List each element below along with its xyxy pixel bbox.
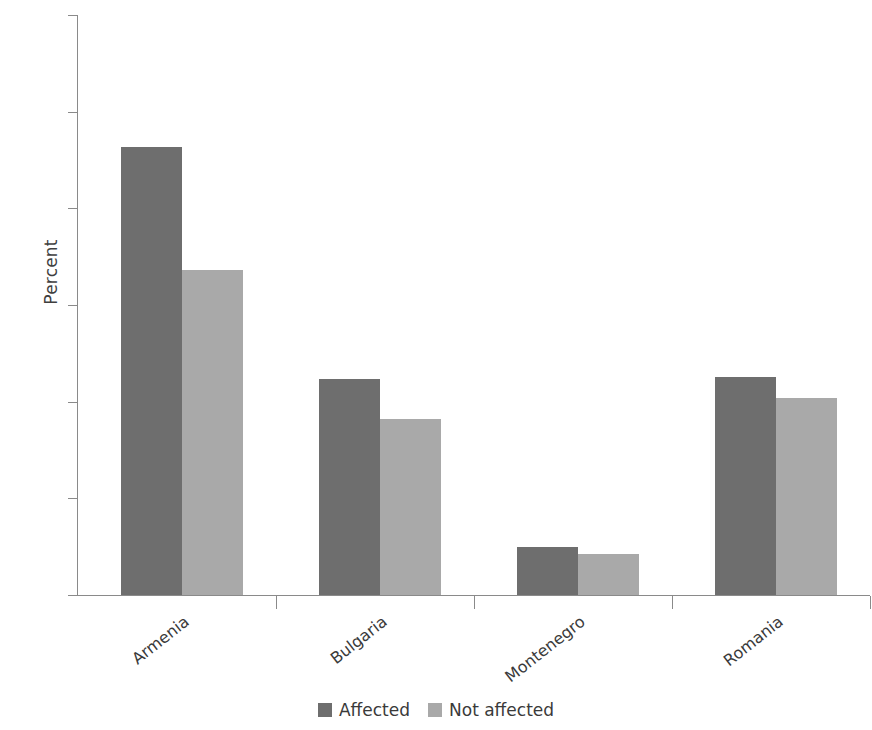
bar-bulgaria-not-affected bbox=[380, 419, 441, 595]
bar-chart: Percent 0102030405060 ArmeniaBulgariaMon… bbox=[0, 0, 872, 730]
x-axis-tick-label-armenia: Armenia bbox=[86, 612, 192, 701]
y-axis-tick-mark bbox=[68, 112, 77, 113]
legend-item-not-affected: Not affected bbox=[428, 700, 554, 720]
chart-legend: AffectedNot affected bbox=[0, 700, 872, 720]
legend-label: Affected bbox=[339, 700, 410, 720]
y-axis-tick-mark bbox=[68, 595, 77, 596]
plot-area bbox=[78, 15, 870, 595]
y-axis-tick-mark bbox=[68, 15, 77, 16]
x-axis-tick-mark bbox=[870, 596, 871, 609]
y-axis-title: Percent bbox=[41, 227, 61, 317]
x-axis-tick-label-montenegro: Montenegro bbox=[482, 612, 588, 701]
x-axis-tick-mark bbox=[672, 596, 673, 609]
x-axis-tick-label-romania: Romania bbox=[680, 612, 786, 701]
x-axis-tick-label-bulgaria: Bulgaria bbox=[284, 612, 390, 701]
bar-armenia-affected bbox=[121, 147, 182, 595]
legend-label: Not affected bbox=[449, 700, 554, 720]
bar-romania-not-affected bbox=[776, 398, 837, 595]
bar-montenegro-not-affected bbox=[578, 554, 639, 595]
x-axis-tick-mark bbox=[276, 596, 277, 609]
x-axis-tick-mark bbox=[474, 596, 475, 609]
bar-montenegro-affected bbox=[517, 547, 578, 595]
legend-swatch-icon bbox=[428, 703, 442, 717]
legend-swatch-icon bbox=[318, 703, 332, 717]
y-axis-tick-mark bbox=[68, 305, 77, 306]
bar-romania-affected bbox=[715, 377, 776, 595]
y-axis-tick-mark bbox=[68, 498, 77, 499]
bar-bulgaria-affected bbox=[319, 379, 380, 595]
legend-item-affected: Affected bbox=[318, 700, 410, 720]
y-axis-tick-mark bbox=[68, 402, 77, 403]
bar-armenia-not-affected bbox=[182, 270, 243, 595]
y-axis-tick-mark bbox=[68, 208, 77, 209]
